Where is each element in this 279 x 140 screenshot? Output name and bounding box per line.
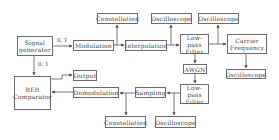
oscilloscope-right-block: Oscilloscope [226, 69, 266, 79]
awgn-block: AWGN [183, 64, 207, 74]
oscilloscope-top1-block: Oscilloscope [151, 13, 192, 24]
ber-comparator-block: BER Comparator [14, 76, 51, 110]
edge-label-gen-to-ber: 0, 1 [38, 61, 49, 67]
signal-generator-block: Signal generator [17, 36, 53, 56]
edge-label-gen-to-mod: 0, 1 [57, 37, 68, 43]
oscilloscope-bottom-block: Oscilloscope [155, 116, 196, 128]
constellation-top-block: Constellation [97, 13, 138, 24]
lowpass-filter-top-block: Low-pass Filter [180, 34, 209, 54]
constellation-bottom-block: Constellation [105, 116, 146, 128]
demodulation-block: Demodulation [73, 87, 119, 98]
modulation-block: Modulation [73, 40, 114, 51]
output-block: Output [73, 70, 97, 81]
interpolation-block: Interpolation [125, 40, 167, 51]
lowpass-filter-bottom-block: Low-pass Filter [180, 84, 209, 104]
sampling-block: Sampling [135, 87, 166, 98]
oscilloscope-top2-block: Oscilloscope [198, 13, 239, 24]
carrier-frequency-block: Carrier Frequency [227, 34, 267, 54]
